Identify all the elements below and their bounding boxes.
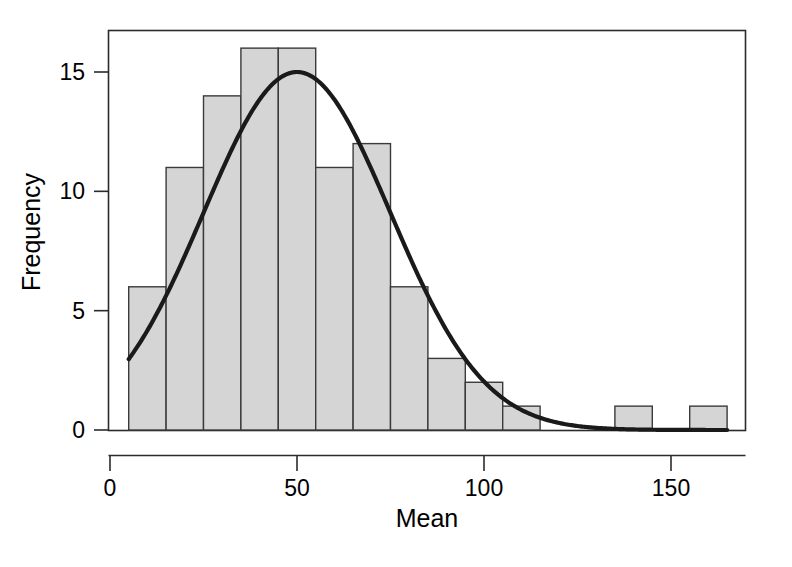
x-axis-title: Mean [396,504,459,532]
y-axis-tick-label: 10 [59,178,85,204]
histogram-bar [428,358,465,430]
histogram-bar [615,406,652,430]
x-axis-tick-label: 50 [284,475,310,501]
histogram-bar [391,287,428,430]
x-axis-tick-label: 150 [652,475,690,501]
histogram-bar [316,167,353,430]
y-axis-tick-label: 0 [72,417,85,443]
x-axis-tick-label: 100 [465,475,503,501]
histogram-chart-svg: 051015 050100150 Mean Frequency [0,0,792,567]
y-axis-tick-label: 5 [72,298,85,324]
histogram-bar [465,382,502,430]
histogram-bar [690,406,727,430]
histogram-bar [353,144,390,430]
y-axis-title: Frequency [17,172,45,291]
x-axis-tick-label: 0 [104,475,117,501]
histogram-bar [278,48,315,430]
y-axis-tick-label: 15 [59,59,85,85]
histogram-bar [241,48,278,430]
histogram-bar [166,167,203,430]
histogram-figure: 051015 050100150 Mean Frequency [0,0,792,567]
